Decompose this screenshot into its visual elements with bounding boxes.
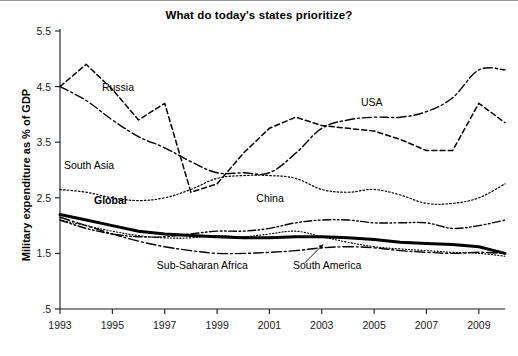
y-tick-labels: 5.54.53.52.51.5.5 (36, 25, 60, 315)
series-label-south-america: South America (293, 259, 361, 271)
series-label-south-asia: South Asia (64, 159, 114, 171)
axes (60, 29, 505, 309)
x-tick-labels: 199319951997199920012003200520072009 (48, 309, 490, 331)
y-tick-label: .5 (42, 303, 51, 315)
data-series (60, 64, 505, 256)
y-tick-label: 2.5 (36, 192, 51, 204)
y-tick-label: 4.5 (36, 81, 51, 93)
y-tick-label: 3.5 (36, 136, 51, 148)
series-label-russia: Russia (102, 81, 134, 93)
x-tick-label: 2001 (258, 319, 282, 331)
y-tick-label: 5.5 (36, 25, 51, 37)
series-label-usa: USA (361, 96, 383, 108)
x-tick-label: 2003 (310, 319, 334, 331)
x-tick-label: 2007 (415, 319, 439, 331)
y-tick-label: 1.5 (36, 247, 51, 259)
chart-plot-area: 5.54.53.52.51.5.5 1993199519971999200120… (0, 1, 518, 356)
series-label-global: Global (94, 194, 127, 206)
series-label-china: China (256, 192, 284, 204)
x-tick-label: 2009 (467, 319, 491, 331)
x-tick-label: 1995 (101, 319, 125, 331)
series-label-sub-saharan-africa: Sub-Saharan Africa (157, 259, 248, 271)
x-tick-label: 2005 (362, 319, 386, 331)
x-tick-label: 1993 (48, 319, 72, 331)
chart-figure: What do today's states prioritize? Milit… (0, 0, 518, 356)
x-tick-label: 1997 (153, 319, 177, 331)
x-tick-label: 1999 (205, 319, 229, 331)
